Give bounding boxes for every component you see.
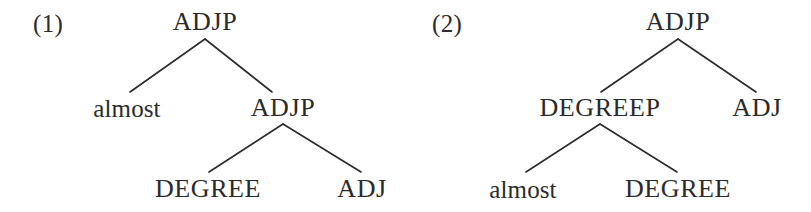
tree-edge — [678, 39, 756, 92]
tree-node-adjp-root-2: ADJP — [646, 9, 711, 35]
tree-edge — [209, 124, 283, 172]
tree-node-degreep-2: DEGREEP — [539, 95, 660, 121]
tree-edge — [283, 124, 361, 172]
example-number-2: (2) — [432, 11, 462, 36]
tree-node-degree-2: DEGREE — [625, 176, 731, 202]
tree-node-adj-2: ADJ — [732, 95, 781, 121]
tree-node-adj-1: ADJ — [337, 176, 386, 202]
syntax-tree-figure: (1) ADJP almost ADJP DEGREE ADJ (2) ADJP… — [0, 0, 811, 212]
tree-node-adjp-root-1: ADJP — [173, 9, 238, 35]
example-number-1: (1) — [33, 11, 63, 36]
tree-edge — [526, 124, 600, 172]
tree-edge — [130, 39, 205, 92]
tree-edge — [600, 124, 677, 172]
tree-node-adjp-inner-1: ADJP — [251, 95, 316, 121]
tree-node-degree-1: DEGREE — [155, 176, 261, 202]
tree-node-almost-2: almost — [489, 177, 556, 202]
tree-node-almost-1: almost — [93, 96, 160, 121]
tree-edge — [205, 39, 272, 92]
tree-edge — [601, 39, 678, 92]
